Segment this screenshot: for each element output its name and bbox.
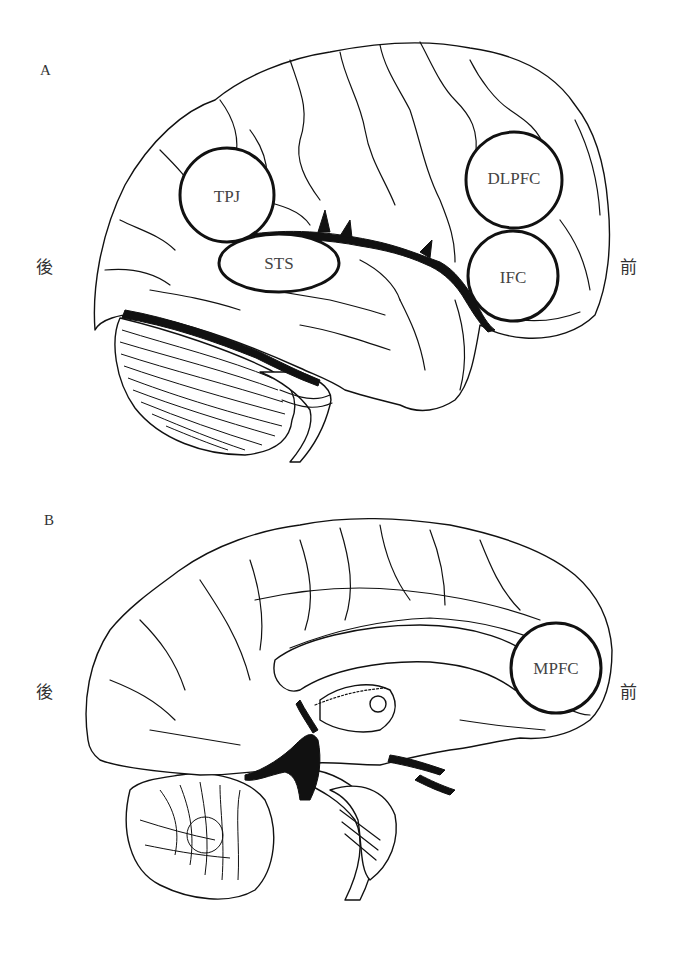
brain-figure: TPJ STS DLPFC IFC [0,0,682,955]
region-mpfc[interactable]: MPFC [511,623,601,713]
region-sts-label: STS [264,254,293,273]
region-mpfc-label: MPFC [533,659,578,678]
medial-brain: MPFC [86,519,612,900]
region-sts[interactable]: STS [219,234,339,292]
mammillary-body [370,696,386,712]
lateral-brain: TPJ STS DLPFC IFC [94,42,609,462]
region-dlpfc-label: DLPFC [488,169,541,188]
region-ifc[interactable]: IFC [468,231,558,321]
figure-caption [0,944,682,955]
region-tpj-label: TPJ [214,187,241,206]
region-dlpfc[interactable]: DLPFC [466,132,562,228]
region-ifc-label: IFC [500,268,526,287]
region-tpj[interactable]: TPJ [180,148,274,242]
